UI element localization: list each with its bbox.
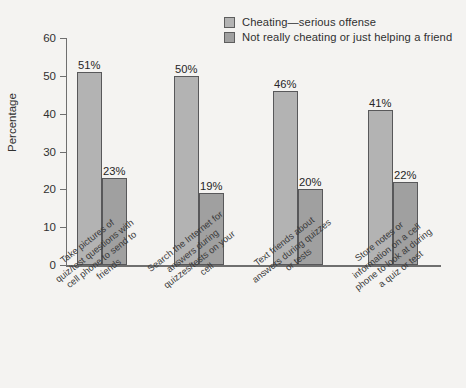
y-axis-tick-label: 50 [34, 70, 56, 82]
y-axis-tick-label: 60 [34, 32, 56, 44]
bar-value-label: 20% [299, 176, 321, 188]
legend-label-series-1: Cheating—serious offense [242, 16, 376, 28]
bar-value-label: 50% [175, 63, 197, 75]
legend-item-cheating-serious-offense: Cheating—serious offense [224, 16, 452, 28]
bar-chart-figure: Cheating—serious offense Not really chea… [0, 0, 466, 388]
y-axis-title: Percentage [6, 93, 18, 152]
legend-swatch-series-1 [224, 17, 235, 28]
bar-value-label: 41% [369, 97, 391, 109]
bar-value-label: 46% [274, 78, 296, 90]
bar-value-label: 22% [394, 169, 416, 181]
bar-value-label: 51% [78, 59, 100, 71]
y-axis-tick-label: 20 [34, 183, 56, 195]
bar-value-label: 23% [103, 165, 125, 177]
y-axis-tick-label: 30 [34, 146, 56, 158]
y-axis-tick-label: 10 [34, 221, 56, 233]
bar-value-label: 19% [200, 180, 222, 192]
y-axis-tick-label: 40 [34, 108, 56, 120]
